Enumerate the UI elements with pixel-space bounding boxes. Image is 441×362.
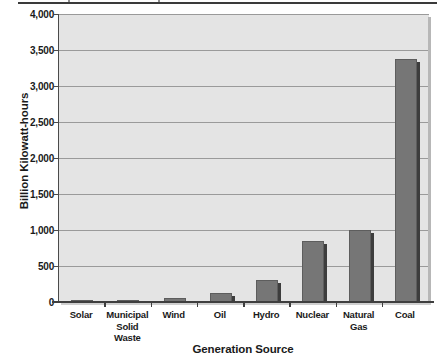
gridline (59, 86, 429, 87)
x-axis-tick-label: Nuclear (289, 309, 335, 321)
bar (256, 280, 278, 302)
y-axis-tick (54, 86, 59, 87)
x-axis-tick (151, 302, 153, 307)
plot-area (58, 14, 429, 302)
y-axis-tick-label: 0 (20, 297, 54, 308)
bar (302, 241, 324, 302)
x-axis-tick-label: Hydro (243, 309, 289, 321)
bar-rect (349, 230, 371, 302)
y-axis-tick (54, 266, 59, 267)
y-axis-tick (54, 158, 59, 159)
gridline (59, 14, 429, 15)
x-axis-tick-label: Natural Gas (336, 309, 382, 332)
y-axis-tick-label: 1,000 (20, 225, 54, 236)
x-axis-tick-label-line: Solid Waste (104, 321, 150, 344)
gridline (59, 158, 429, 159)
x-axis-tick (104, 302, 106, 307)
bar-rect (256, 280, 278, 302)
bar-rect (302, 241, 324, 302)
y-axis-tick-label: 2,000 (20, 153, 54, 164)
bar-chart-figure: Billion Kilowatt-hours 05001,0001,5002,0… (0, 0, 441, 362)
y-axis-tick-label: 3,000 (20, 81, 54, 92)
x-axis-tick (243, 302, 245, 307)
gridline (59, 122, 429, 123)
y-axis-tick (54, 230, 59, 231)
x-axis-title: Generation Source (58, 343, 428, 355)
x-axis-tick-labels: SolarMunicipalSolid WasteWindOilHydroNuc… (58, 309, 428, 343)
x-axis-tick (197, 302, 199, 307)
gridline (59, 50, 429, 51)
y-axis-tick-labels: 05001,0001,5002,0002,5003,0003,5004,000 (20, 8, 54, 308)
x-axis-tick-label: MunicipalSolid Waste (104, 309, 150, 344)
x-axis-tick-label-line: Nuclear (289, 309, 335, 321)
bar-shadow (371, 233, 374, 305)
y-axis-tick (54, 194, 59, 195)
y-axis-tick-label: 3,500 (20, 45, 54, 56)
x-axis-tick (382, 302, 384, 307)
y-axis-tick (54, 14, 59, 15)
y-axis-tick-label: 500 (20, 261, 54, 272)
x-axis-tick-label: Coal (382, 309, 428, 321)
x-axis-tick-label-line: Hydro (243, 309, 289, 321)
plot-area-shadow-right (428, 17, 431, 305)
y-axis-tick (54, 122, 59, 123)
gridline (59, 230, 429, 231)
bar-shadow (417, 62, 420, 305)
x-axis-tick (336, 302, 338, 307)
x-axis-tick-label: Oil (197, 309, 243, 321)
x-axis-tick-label-line: Coal (382, 309, 428, 321)
x-axis-tick (289, 302, 291, 307)
x-axis-tick-label: Wind (151, 309, 197, 321)
bar (349, 230, 371, 302)
y-axis-tick-label: 2,500 (20, 117, 54, 128)
bar-rect (395, 59, 417, 302)
x-axis-tick-label-line: Oil (197, 309, 243, 321)
x-axis-tick-label-line: Solar (58, 309, 104, 321)
bar (395, 59, 417, 302)
caption-divider-rule (18, 2, 437, 4)
y-axis-tick (54, 50, 59, 51)
y-axis-tick-label: 4,000 (20, 9, 54, 20)
y-axis-tick-label: 1,500 (20, 189, 54, 200)
x-axis-tick-label-line: Municipal (104, 309, 150, 321)
gridline (59, 194, 429, 195)
x-axis-tick-label-line: Natural Gas (336, 309, 382, 332)
bar-shadow (324, 244, 327, 305)
x-axis-tick-label: Solar (58, 309, 104, 321)
x-axis-tick-label-line: Wind (151, 309, 197, 321)
